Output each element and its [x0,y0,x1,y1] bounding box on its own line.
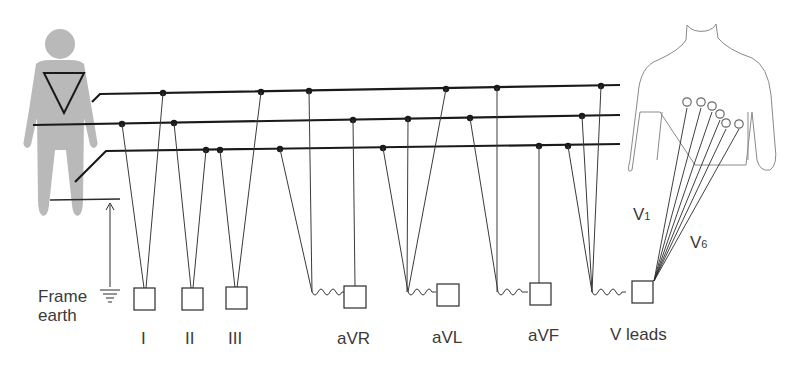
v1-sub: 1 [644,210,650,222]
lead-label-V-leads: V leads [610,326,667,343]
chest-label-v6: V6 [690,234,707,251]
lead-label-III: III [228,330,242,347]
lead-box-aVF [530,283,551,305]
lead-label-I: I [141,330,146,347]
lead-box-II [182,288,203,310]
lead-box-V [632,281,653,303]
ecg-lead-diagram: Frame earth I II III aVR aVL aVF V leads… [0,0,811,369]
lead-label-aVL: aVL [432,329,462,346]
v6-main: V [690,233,701,252]
lead-box-aVR [344,286,366,308]
lead-label-aVR: aVR [337,330,370,347]
ground-icon [100,290,120,302]
human-figure [23,29,97,216]
v1-main: V [633,205,644,224]
lead-wires [122,86,626,295]
diagram-canvas [0,0,811,369]
frame-earth-label-line1: Frame [38,288,87,305]
bus-lines [33,85,620,182]
chest-label-v1: V1 [633,206,650,223]
frame-earth-connection [50,199,120,287]
lead-label-aVF: aVF [528,327,559,344]
lead-box-aVL [437,284,459,306]
torso-arm-left [657,112,662,160]
chest-electrode-wires [654,108,739,281]
chest-electrodes [683,98,743,128]
lead-box-I [134,288,155,310]
lead-label-II: II [185,330,194,347]
frame-earth-label-line2: earth [38,307,77,324]
v6-sub: 6 [701,238,707,250]
lead-box-III [226,287,247,309]
lead-boxes [134,281,653,310]
